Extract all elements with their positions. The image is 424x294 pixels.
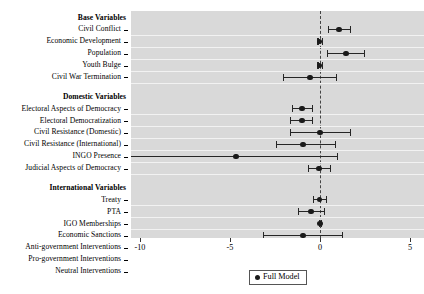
grid-line bbox=[131, 162, 424, 163]
row-label: Civil Resistance (International) bbox=[0, 140, 128, 148]
point-estimate-marker bbox=[299, 106, 304, 111]
ci-upper-cap bbox=[335, 141, 336, 148]
row-tick-icon bbox=[124, 30, 128, 31]
point-estimate-marker bbox=[316, 166, 321, 171]
grid-line bbox=[131, 35, 424, 36]
ci-lower-cap bbox=[276, 141, 277, 148]
row-tick-icon bbox=[124, 169, 128, 170]
row-tick-icon bbox=[124, 66, 128, 67]
row-label: PTA bbox=[0, 208, 128, 216]
x-axis-tick bbox=[320, 238, 321, 242]
grid-line bbox=[131, 59, 424, 60]
ci-lower-cap bbox=[290, 117, 291, 124]
row-label: Economic Development bbox=[0, 37, 128, 45]
row-label: Civil Resistance (Domestic) bbox=[0, 128, 128, 136]
row-tick-icon bbox=[124, 109, 128, 110]
row-tick-icon bbox=[124, 236, 128, 237]
point-estimate-marker bbox=[233, 154, 238, 159]
x-axis-tick bbox=[410, 238, 411, 242]
ci-upper-cap bbox=[337, 153, 338, 160]
ci-upper-cap bbox=[330, 165, 331, 172]
ci-upper-cap bbox=[324, 208, 325, 215]
x-axis-tick bbox=[140, 238, 141, 242]
point-estimate-marker bbox=[317, 221, 322, 226]
row-label: Judicial Aspects of Democracy bbox=[0, 164, 128, 172]
ci-upper-cap bbox=[364, 50, 365, 57]
row-label: Treaty bbox=[0, 196, 128, 204]
x-axis-tick-label: 5 bbox=[395, 243, 424, 253]
group-header-international-variables: International Variables bbox=[0, 184, 128, 192]
ci-lower-cap bbox=[298, 208, 299, 215]
row-label: Electoral Aspects of Democracy bbox=[0, 105, 128, 113]
ci-lower-cap bbox=[290, 129, 291, 136]
point-estimate-marker bbox=[299, 118, 304, 123]
point-estimate-marker bbox=[317, 130, 322, 135]
row-tick-icon bbox=[124, 224, 128, 225]
grid-line bbox=[131, 217, 424, 218]
ci-upper-cap bbox=[336, 74, 337, 81]
grid-line bbox=[131, 114, 424, 115]
ci-lower-cap bbox=[327, 50, 328, 57]
x-axis-tick-label: 0 bbox=[305, 243, 335, 253]
ci-upper-cap bbox=[312, 117, 313, 124]
x-axis-tick-label: -5 bbox=[215, 243, 245, 253]
row-label: Civil War Termination bbox=[0, 73, 128, 81]
zero-reference-line bbox=[320, 11, 321, 238]
point-estimate-marker bbox=[336, 27, 341, 32]
legend-label: Full Model bbox=[263, 272, 300, 282]
ci-upper-cap bbox=[322, 38, 323, 45]
group-header-domestic-variables: Domestic Variables bbox=[0, 93, 128, 101]
point-estimate-marker bbox=[317, 197, 322, 202]
grid-line bbox=[131, 138, 424, 139]
row-label: IGO Memberships bbox=[0, 220, 128, 228]
grid-line bbox=[131, 205, 424, 206]
ci-lower-cap bbox=[308, 165, 309, 172]
point-estimate-marker bbox=[300, 142, 305, 147]
row-tick-icon bbox=[124, 54, 128, 55]
grid-line bbox=[131, 229, 424, 230]
group-header-base-variables: Base Variables bbox=[0, 14, 128, 22]
x-axis-tick bbox=[230, 238, 231, 242]
ci-lower-cap bbox=[292, 105, 293, 112]
point-estimate-marker bbox=[308, 209, 313, 214]
row-tick-icon bbox=[124, 121, 128, 122]
legend-marker-icon bbox=[255, 275, 260, 280]
ci-upper-cap bbox=[322, 62, 323, 69]
row-tick-icon bbox=[124, 145, 128, 146]
ci-upper-cap bbox=[326, 196, 327, 203]
row-label: Electoral Democratization bbox=[0, 117, 128, 125]
coefficient-plot-figure: Base VariablesCivil ConflictEconomic Dev… bbox=[0, 0, 424, 294]
x-axis: -10-505 bbox=[0, 238, 424, 262]
row-tick-icon bbox=[124, 272, 128, 273]
ci-upper-cap bbox=[350, 26, 351, 33]
row-tick-icon bbox=[124, 200, 128, 201]
row-label: Neutral Interventions bbox=[0, 267, 128, 275]
row-tick-icon bbox=[124, 42, 128, 43]
row-label: INGO Presence bbox=[0, 152, 128, 160]
row-tick-icon bbox=[124, 157, 128, 158]
ci-lower-cap bbox=[328, 26, 329, 33]
ci-upper-cap bbox=[312, 105, 313, 112]
grid-line bbox=[131, 71, 424, 72]
legend: Full Model bbox=[249, 270, 307, 285]
row-label: Population bbox=[0, 49, 128, 57]
plot-panel bbox=[131, 11, 424, 238]
row-tick-icon bbox=[124, 77, 128, 78]
ci-lower-cap bbox=[313, 196, 314, 203]
point-estimate-marker bbox=[343, 51, 348, 56]
x-axis-tick-label: -10 bbox=[125, 243, 155, 253]
grid-line bbox=[131, 126, 424, 127]
ci-upper-cap bbox=[350, 129, 351, 136]
grid-line bbox=[131, 47, 424, 48]
row-label: Youth Bulge bbox=[0, 61, 128, 69]
point-estimate-marker bbox=[307, 75, 312, 80]
ci-lower-cap bbox=[283, 74, 284, 81]
row-tick-icon bbox=[124, 212, 128, 213]
grid-line bbox=[131, 83, 424, 84]
row-label: Civil Conflict bbox=[0, 25, 128, 33]
grid-line bbox=[131, 174, 424, 175]
grid-line bbox=[131, 150, 424, 151]
row-tick-icon bbox=[124, 133, 128, 134]
